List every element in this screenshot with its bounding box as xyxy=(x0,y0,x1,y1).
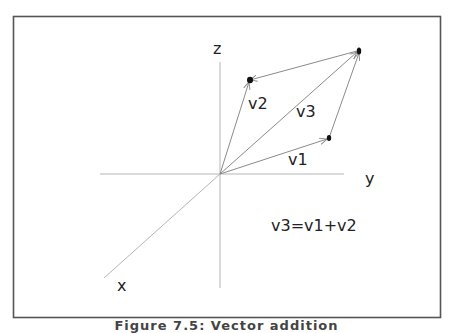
v2-label: v2 xyxy=(248,94,268,113)
y-axis-label: y xyxy=(365,169,374,188)
v3-label: v3 xyxy=(296,102,316,121)
x-axis-label: x xyxy=(117,276,126,295)
figure-caption: Figure 7.5: Vector addition xyxy=(0,318,453,333)
equation-label: v3=v1+v2 xyxy=(271,216,357,235)
figure-frame xyxy=(14,17,441,318)
v2-tip-dot xyxy=(247,77,253,83)
v1-label: v1 xyxy=(288,150,308,169)
v1-tip-dot xyxy=(327,135,331,141)
v3-tip-dot xyxy=(357,48,361,55)
z-axis-label: z xyxy=(213,39,221,58)
